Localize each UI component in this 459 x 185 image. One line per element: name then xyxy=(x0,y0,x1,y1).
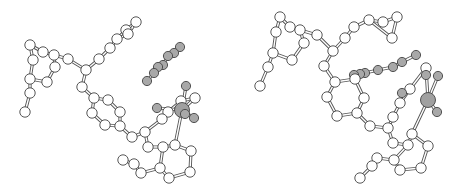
carbon-atom xyxy=(87,108,97,118)
carbon-atom xyxy=(49,50,59,60)
hetero-atom xyxy=(411,50,420,59)
carbon-atom xyxy=(403,140,413,150)
carbon-atom xyxy=(77,82,87,92)
carbon-atom xyxy=(389,155,399,165)
carbon-atom xyxy=(155,163,165,173)
carbon-atom xyxy=(365,121,375,131)
carbon-atom xyxy=(25,74,35,84)
carbon-atom xyxy=(312,30,322,40)
carbon-atom xyxy=(387,33,397,43)
carbon-atom xyxy=(295,25,305,35)
carbon-atom xyxy=(103,95,113,105)
carbon-atom xyxy=(115,121,125,131)
hetero-atom xyxy=(163,51,172,60)
carbon-atom xyxy=(100,120,110,130)
carbon-atom xyxy=(131,17,141,27)
carbon-atom xyxy=(332,111,342,121)
carbon-atom xyxy=(299,38,309,48)
hetero-atom xyxy=(189,113,198,122)
carbon-atom xyxy=(185,167,195,177)
carbon-atom xyxy=(127,132,137,142)
carbon-atom xyxy=(367,161,377,171)
hetero-atom xyxy=(432,107,441,116)
carbon-atom xyxy=(118,155,128,165)
carbon-atom xyxy=(158,142,168,152)
carbon-atom xyxy=(63,54,73,64)
carbon-atom xyxy=(50,62,60,72)
carbon-atom xyxy=(38,47,48,57)
hetero-atom xyxy=(433,71,442,80)
carbon-atom xyxy=(140,127,150,137)
carbon-atom xyxy=(94,54,104,64)
carbon-atom xyxy=(255,81,265,91)
carbon-atom xyxy=(285,22,295,32)
carbon-atom xyxy=(271,27,281,37)
metal-atom xyxy=(421,93,436,108)
atoms-group xyxy=(255,12,443,183)
carbon-atom xyxy=(349,22,359,32)
carbon-atom xyxy=(340,33,350,43)
carbon-atom xyxy=(25,88,35,98)
carbon-atom xyxy=(268,48,278,58)
carbon-atom xyxy=(186,146,196,156)
carbon-atom xyxy=(330,77,340,87)
hetero-atom xyxy=(388,62,397,71)
hetero-atom xyxy=(373,65,382,74)
carbon-atom xyxy=(164,173,174,183)
carbon-atom xyxy=(383,123,393,133)
carbon-atom xyxy=(395,98,405,108)
carbon-atom xyxy=(407,129,417,139)
carbon-atom xyxy=(25,40,35,50)
carbon-atom xyxy=(28,55,38,65)
carbon-atom xyxy=(416,163,426,173)
carbon-atom xyxy=(263,62,273,72)
carbon-atom xyxy=(20,107,30,117)
molecule-figure xyxy=(0,0,459,185)
hetero-atom xyxy=(152,103,161,112)
carbon-atom xyxy=(42,77,52,87)
carbon-atom xyxy=(395,165,405,175)
carbon-atom xyxy=(319,61,329,71)
carbon-atom xyxy=(423,141,433,151)
carbon-atom xyxy=(81,65,91,75)
carbon-atom xyxy=(287,55,297,65)
hetero-atom xyxy=(421,70,430,79)
carbon-atom xyxy=(115,107,125,117)
carbon-atom xyxy=(350,74,360,84)
carbon-atom xyxy=(143,142,153,152)
carbon-atom xyxy=(378,17,388,27)
carbon-atom xyxy=(105,43,115,53)
carbon-atom xyxy=(392,12,402,22)
carbon-atom xyxy=(388,112,398,122)
hetero-atom xyxy=(149,68,158,77)
carbon-atom xyxy=(123,29,133,39)
carbon-atom xyxy=(89,93,99,103)
hetero-atom xyxy=(397,57,406,66)
carbon-atom xyxy=(129,159,139,169)
carbon-atom xyxy=(388,138,398,148)
carbon-atom xyxy=(322,92,332,102)
carbon-atom xyxy=(355,173,365,183)
carbon-atom xyxy=(190,93,200,103)
hetero-atom xyxy=(142,76,151,85)
carbon-atom xyxy=(352,108,362,118)
carbon-atom xyxy=(170,140,180,150)
hetero-atom xyxy=(180,109,189,118)
carbon-atom xyxy=(328,46,338,56)
carbon-atom xyxy=(359,93,369,103)
atoms-group xyxy=(20,17,200,183)
carbon-atom xyxy=(157,114,167,124)
molecule-view-left xyxy=(0,0,229,185)
carbon-atom xyxy=(136,168,146,178)
carbon-atom xyxy=(275,12,285,22)
carbon-atom xyxy=(364,15,374,25)
hetero-atom xyxy=(181,81,190,90)
hetero-atom xyxy=(397,88,406,97)
carbon-atom xyxy=(112,34,122,44)
molecule-view-right xyxy=(230,0,459,185)
